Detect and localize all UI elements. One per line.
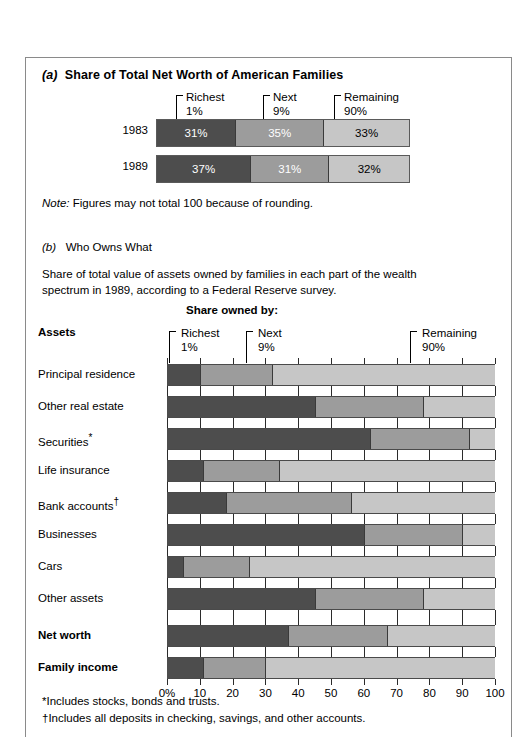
bar-row-other-real-estate [167, 396, 495, 418]
legend-bracket-next-a: Next 9% [273, 90, 297, 118]
legend-bracket-richest-a-line1: Richest [186, 91, 224, 103]
row-tick-3-50 [331, 482, 332, 492]
row-tick-0-100 [495, 386, 496, 396]
bracket-dash-richest-a [176, 95, 183, 96]
row-tick-1-10 [200, 418, 201, 428]
row-tick-1-20 [233, 418, 234, 428]
asset-label-cars: Cars [38, 560, 62, 572]
bar-segment-0 [167, 557, 183, 577]
row-tick-0-80 [429, 386, 430, 396]
summary-top-tick-80 [429, 619, 430, 625]
row-tick-5-70 [397, 546, 398, 556]
summary-label-net-worth: Net worth [38, 629, 91, 641]
row-tick-3-80 [429, 482, 430, 492]
axis-tick-60 [364, 679, 365, 685]
bar-segment-0 [167, 365, 200, 385]
row-tick-4-70 [397, 514, 398, 524]
row-tick-2-90 [462, 450, 463, 460]
bar-row-principal-residence [167, 364, 495, 386]
bar-segment-2 [279, 461, 495, 481]
bracket-stem-remaining-b [410, 331, 411, 363]
summary-tick-20 [233, 647, 234, 657]
row-tick-6-60 [364, 578, 365, 588]
summary-top-tick-10 [200, 619, 201, 625]
row-tick-3-90 [462, 482, 463, 492]
bar-segment-2 [462, 525, 495, 545]
bar-segment-1989-next: 31% [250, 156, 328, 182]
row-tick-2-30 [265, 450, 266, 460]
row-tick-0-10 [200, 386, 201, 396]
legend-bracket-remaining-b-line2: 90% [422, 340, 477, 354]
top-tick-100 [495, 358, 496, 364]
row-tick-3-10 [200, 482, 201, 492]
axis-label-80: 80 [414, 687, 444, 699]
bar-row-family-income [167, 657, 495, 679]
bar-segment-2 [423, 397, 495, 417]
row-tick-6-70 [397, 578, 398, 588]
bar-segment-2 [249, 557, 495, 577]
legend-bracket-next-b-line1: Next [258, 327, 282, 339]
asset-label-bank-accounts: Bank accounts† [38, 496, 119, 512]
legend-bracket-remaining-a-line2: 90% [344, 104, 399, 118]
row-tick-1-50 [331, 418, 332, 428]
legend-bracket-next-b: Next 9% [258, 326, 282, 354]
row-tick-3-100 [495, 482, 496, 492]
footnote-asterisk: *Includes stocks, bonds and trusts. [42, 695, 220, 707]
row-tick-4-50 [331, 514, 332, 524]
bar-row-label-1983: 1983 [88, 124, 148, 136]
legend-bracket-next-a-line1: Next [273, 91, 297, 103]
row-tick-0-20 [233, 386, 234, 396]
bar-segment-0 [167, 626, 288, 646]
axis-label-60: 60 [349, 687, 379, 699]
bracket-stem-next-b [246, 331, 247, 363]
bar-segment-2 [387, 626, 495, 646]
bar-row-businesses [167, 524, 495, 546]
row-tick-2-0 [167, 450, 168, 460]
row-tick-2-80 [429, 450, 430, 460]
row-tick-4-10 [200, 514, 201, 524]
bar-segment-1 [288, 626, 386, 646]
axis-label-50: 50 [316, 687, 346, 699]
axis-label-20: 20 [218, 687, 248, 699]
bar-row-label-1989: 1989 [88, 160, 148, 172]
summary-top-tick-0 [167, 619, 168, 625]
assets-column-header: Assets [38, 326, 76, 338]
bar-segment-2 [351, 493, 495, 513]
summary-top-tick-60 [364, 619, 365, 625]
axis-label-90: 90 [447, 687, 477, 699]
row-tick-3-20 [233, 482, 234, 492]
axis-label-100: 100 [480, 687, 510, 699]
row-tick-4-40 [298, 514, 299, 524]
row-tick-5-40 [298, 546, 299, 556]
bar-segment-1 [370, 429, 468, 449]
rounding-note-text: Figures may not total 100 because of rou… [70, 197, 314, 209]
axis-tick-0 [167, 679, 168, 685]
row-tick-5-100 [495, 546, 496, 556]
bar-segment-1983-next: 35% [235, 120, 323, 146]
row-tick-5-60 [364, 546, 365, 556]
section-b-title: (b) Who Owns What [42, 241, 152, 253]
summary-tick-90 [462, 647, 463, 657]
bar-segment-0 [167, 397, 315, 417]
bar-segment-2 [423, 589, 495, 609]
bar-segment-0 [167, 658, 203, 678]
row-tick-2-20 [233, 450, 234, 460]
asset-label-other-real-estate: Other real estate [38, 400, 124, 412]
bar-row-bank-accounts [167, 492, 495, 514]
bar-segment-0 [167, 493, 226, 513]
bar-segment-1 [183, 557, 249, 577]
legend-bracket-richest-a-line2: 1% [186, 104, 224, 118]
axis-tick-100 [495, 679, 496, 685]
summary-tick-70 [397, 647, 398, 657]
bar-segment-2 [265, 658, 495, 678]
bar-segment-1989-remaining: 32% [328, 156, 409, 182]
row-tick-6-90 [462, 578, 463, 588]
bar-row-1983: 31% 35% 33% [156, 119, 410, 147]
bar-segment-0 [167, 525, 364, 545]
row-tick-4-30 [265, 514, 266, 524]
bar-row-1989: 37% 31% 32% [156, 155, 410, 183]
bracket-dash-richest-b [169, 331, 176, 332]
row-tick-4-60 [364, 514, 365, 524]
bar-row-net-worth [167, 625, 495, 647]
row-tick-1-0 [167, 418, 168, 428]
